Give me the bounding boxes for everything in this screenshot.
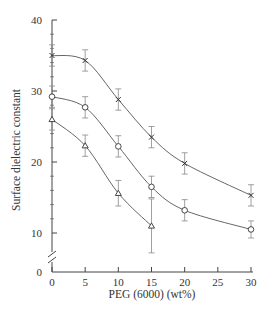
fit-curve (52, 119, 152, 225)
circle-marker (149, 184, 155, 190)
x-tick-label: 25 (212, 276, 224, 288)
chart: 010203040 051015202530 PEG (6000) (wt%) … (0, 0, 272, 316)
y-tick-label: 20 (31, 156, 43, 168)
circle-marker (182, 207, 188, 213)
x-tick-label: 15 (146, 276, 158, 288)
data-series (49, 45, 254, 253)
x-tick-label: 20 (179, 276, 191, 288)
series-triangle (49, 109, 155, 253)
x-tick-labels: 051015202530 (49, 276, 257, 288)
y-tick-labels: 010203040 (31, 14, 43, 278)
x-axis-label: PEG (6000) (wt%) (109, 288, 196, 301)
x-tick-label: 5 (82, 276, 88, 288)
y-tick-label: 40 (31, 14, 43, 26)
x-tick-label: 10 (113, 276, 125, 288)
y-axis-label: Surface dielectric constant (10, 88, 22, 211)
x-tick-label: 0 (49, 276, 55, 288)
y-tick-label: 0 (37, 266, 43, 278)
y-tick-label: 10 (31, 227, 43, 239)
triangle-marker (49, 116, 55, 121)
fit-curve (52, 55, 251, 195)
circle-marker (248, 227, 254, 233)
circle-marker (49, 94, 55, 100)
y-tick-label: 30 (31, 85, 43, 97)
x-tick-label: 30 (246, 276, 258, 288)
circle-marker (116, 144, 122, 150)
circle-marker (82, 105, 88, 111)
